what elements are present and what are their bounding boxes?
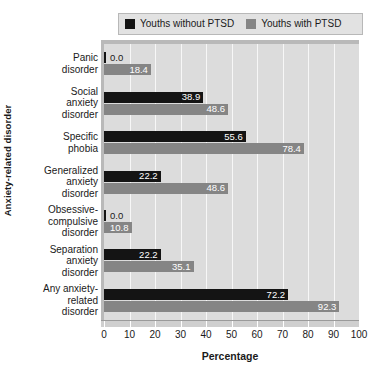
- category-label: Specificphobia: [16, 131, 98, 154]
- x-axis-tick-label: 0: [101, 329, 107, 340]
- gridline: [308, 44, 309, 320]
- x-axis-strip: [101, 320, 359, 327]
- legend-swatch-without-ptsd: [125, 19, 135, 29]
- gridline: [334, 44, 335, 320]
- bar-without-ptsd: 38.9: [104, 92, 203, 103]
- x-axis-tick-labels: 0102030405060708090100: [101, 329, 359, 343]
- gridline: [257, 44, 258, 320]
- plot-frame: 0.038.955.622.20.022.272.218.448.678.448…: [101, 40, 359, 320]
- bar-value-label: 72.2: [267, 290, 286, 300]
- x-axis-tick: [155, 321, 156, 328]
- x-axis-tick-label: 10: [124, 329, 135, 340]
- x-axis-tick: [104, 321, 105, 328]
- category-label: Panicdisorder: [16, 52, 98, 75]
- y-axis-category-labels: PanicdisorderSocialanxietydisorderSpecif…: [16, 44, 101, 316]
- bar-value-label: 10.8: [110, 223, 129, 233]
- bar-without-ptsd: 22.2: [104, 249, 161, 260]
- x-axis-tick: [283, 321, 284, 328]
- x-axis-tick-label: 80: [302, 329, 313, 340]
- bar-value-label: 92.3: [318, 302, 337, 312]
- bar-with-ptsd: 92.3: [104, 301, 339, 312]
- legend-label-without-ptsd: Youths without PTSD: [140, 19, 234, 29]
- x-axis-tick-label: 60: [251, 329, 262, 340]
- y-axis-title-text: Anxiety-related disorder: [3, 104, 14, 216]
- bar-value-label: 18.4: [129, 65, 148, 75]
- x-axis-tick: [232, 321, 233, 328]
- bar-value-label: 22.2: [139, 250, 158, 260]
- bar-with-ptsd: 78.4: [104, 143, 304, 154]
- legend-item-youths-with-ptsd: Youths with PTSD: [246, 19, 341, 29]
- x-axis-title: Percentage: [101, 350, 359, 362]
- plot-area: 0.038.955.622.20.022.272.218.448.678.448…: [104, 44, 359, 320]
- bar-value-label: 55.6: [224, 132, 243, 142]
- x-axis-tick: [308, 321, 309, 328]
- x-axis-tick: [359, 321, 360, 328]
- chart-legend: Youths without PTSD Youths with PTSD: [118, 13, 363, 35]
- x-axis-tick: [257, 321, 258, 328]
- bar-value-label: 0.0: [110, 53, 123, 63]
- bar-value-label: 48.6: [206, 104, 225, 114]
- x-axis-tick: [130, 321, 131, 328]
- y-axis-title: Anxiety-related disorder: [0, 0, 16, 320]
- x-axis-tick-label: 90: [328, 329, 339, 340]
- category-label: Obsessive-compulsivedisorder: [16, 204, 98, 239]
- x-axis-tick-label: 50: [226, 329, 237, 340]
- bar-with-ptsd: 48.6: [104, 104, 228, 115]
- x-axis-tick-label: 30: [175, 329, 186, 340]
- bar-zero-stub: [104, 210, 106, 221]
- bar-without-ptsd: 22.2: [104, 171, 161, 182]
- x-axis-tick: [206, 321, 207, 328]
- bar-without-ptsd: 0.0: [104, 210, 134, 221]
- bar-value-label: 48.6: [206, 183, 225, 193]
- x-axis-tick-label: 70: [277, 329, 288, 340]
- bar-value-label: 0.0: [110, 211, 123, 221]
- legend-label-with-ptsd: Youths with PTSD: [261, 19, 341, 29]
- bar-value-label: 35.1: [172, 262, 191, 272]
- x-axis-tick-label: 20: [149, 329, 160, 340]
- gridline: [283, 44, 284, 320]
- bar-without-ptsd: 55.6: [104, 131, 246, 142]
- bar-without-ptsd: 72.2: [104, 289, 288, 300]
- category-label: Socialanxietydisorder: [16, 86, 98, 121]
- legend-item-youths-without-ptsd: Youths without PTSD: [125, 19, 234, 29]
- bar-with-ptsd: 35.1: [104, 261, 194, 272]
- category-label: Separationanxietydisorder: [16, 244, 98, 279]
- bar-chart: Youths without PTSD Youths with PTSD Anx…: [0, 0, 379, 383]
- legend-swatch-with-ptsd: [246, 19, 256, 29]
- x-axis-tick-label: 100: [351, 329, 368, 340]
- category-label: Generalizedanxietydisorder: [16, 165, 98, 200]
- x-axis-tick-label: 40: [200, 329, 211, 340]
- bar-with-ptsd: 10.8: [104, 222, 132, 233]
- x-axis-tick: [334, 321, 335, 328]
- category-label: Any anxiety-relateddisorder: [16, 283, 98, 318]
- x-axis-tick: [181, 321, 182, 328]
- bar-with-ptsd: 48.6: [104, 183, 228, 194]
- gridline: [232, 44, 233, 320]
- bar-value-label: 38.9: [182, 92, 201, 102]
- bar-value-label: 78.4: [282, 144, 301, 154]
- bar-zero-stub: [104, 52, 106, 63]
- bar-value-label: 22.2: [139, 171, 158, 181]
- bar-without-ptsd: 0.0: [104, 52, 134, 63]
- bar-with-ptsd: 18.4: [104, 64, 151, 75]
